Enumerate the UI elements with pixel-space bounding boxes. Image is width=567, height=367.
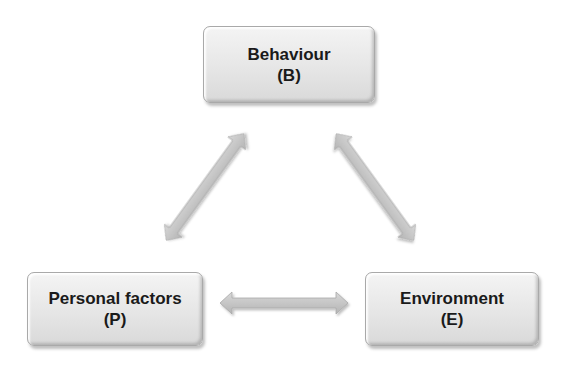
arrow-behaviour-environment (327, 127, 422, 247)
arrow-behaviour-personal (157, 127, 252, 247)
node-personal-factors-abbr: (P) (104, 309, 127, 330)
node-personal-factors-label: Personal factors (48, 288, 181, 309)
node-environment-label: Environment (400, 288, 504, 309)
node-behaviour: Behaviour (B) (203, 26, 375, 103)
node-personal-factors: Personal factors (P) (27, 272, 203, 346)
node-environment-abbr: (E) (441, 309, 464, 330)
arrow-personal-environment (220, 292, 348, 314)
node-environment: Environment (E) (365, 272, 539, 346)
node-behaviour-label: Behaviour (247, 44, 330, 65)
node-behaviour-abbr: (B) (277, 65, 301, 86)
